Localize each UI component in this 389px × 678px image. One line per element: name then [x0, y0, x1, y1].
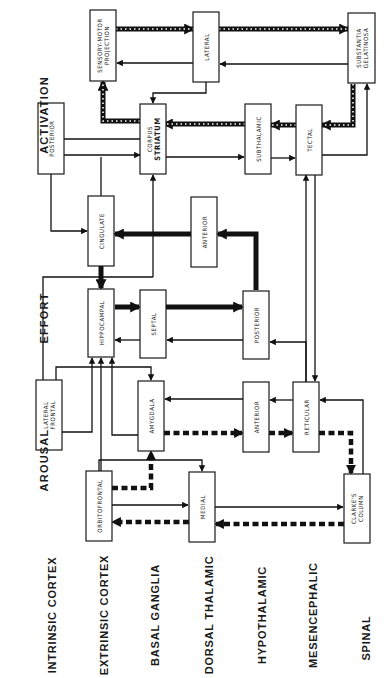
node-clarkes-column: CLARKE'SCOLUMN — [344, 474, 370, 543]
node-label: ORBITOFRONTAL — [96, 479, 103, 532]
node-label: FRONTAL — [49, 401, 56, 430]
level-label-hypothalamic: HYPOTHALAMIC — [256, 566, 268, 664]
node-label: ANTERIOR — [201, 216, 208, 249]
column-labels: ACTIVATION EFFORT AROUSAL — [38, 76, 50, 491]
edge-line — [319, 433, 351, 473]
edge-lateral-to-striatum — [153, 82, 206, 103]
node-label: COLUMN — [357, 495, 364, 522]
level-label-extrinsic-cortex: EXTRINSIC CORTEX — [98, 555, 110, 675]
node-substantia-gelatinosa: SUBSTANTIAGELATINOSA — [348, 13, 375, 83]
node-label: AMYGDALA — [148, 398, 155, 433]
edge-clarkes-to-reticular — [320, 400, 363, 474]
node-orbitofrontal: ORBITOFRONTAL — [86, 471, 112, 541]
column-label-activation: ACTIVATION — [38, 76, 50, 154]
edge-reticular-to-posterior — [270, 342, 306, 382]
edge-tectal-to-substantia — [322, 84, 367, 155]
edge-line — [103, 82, 140, 121]
edge-line — [56, 367, 151, 380]
node-sensory-motor-projection: SENSORY-MOTORPROJECTION — [90, 10, 116, 81]
edge-line — [51, 174, 87, 231]
node-label: MEDIAL — [199, 495, 206, 519]
edge-line — [270, 342, 306, 382]
node-corpus-striatum: CORPUSSTRIATUM — [140, 104, 166, 174]
node-label: ANTERIOR — [253, 401, 260, 434]
edge-striatum-to-sensory — [103, 82, 140, 121]
node-label: SEPTAL — [150, 312, 157, 335]
edge-orbitofrontal-to-amygdala — [112, 452, 151, 488]
node-cingulate: CINGULATE — [88, 196, 114, 266]
edge-reticular-to-clarkes — [319, 433, 351, 473]
edge-amygdala-to-hippocampal — [112, 358, 138, 435]
edge-line — [320, 400, 363, 474]
edge-line — [218, 234, 256, 290]
edge-line — [153, 82, 206, 103]
level-label-mesencephalic: MESENCEPHALIC — [307, 562, 319, 668]
column-label-arousal: AROUSAL — [38, 429, 50, 492]
node-label: HIPPOCAMPAL — [98, 301, 105, 346]
node-label: CORPUS — [146, 126, 153, 152]
column-label-effort: EFFORT — [38, 292, 50, 343]
edge-line — [112, 452, 151, 488]
edge-line — [62, 358, 92, 432]
level-labels: INTRINSIC CORTEX EXTRINSIC CORTEX BASAL … — [46, 555, 372, 675]
node-label: POSTERIOR — [253, 307, 260, 343]
node-septal: SEPTAL — [140, 290, 166, 358]
edge-substantia-to-tectal — [322, 84, 353, 125]
level-label-intrinsic-cortex: INTRINSIC CORTEX — [46, 557, 58, 674]
edge-stripe — [322, 84, 353, 125]
level-label-spinal: SPINAL — [360, 615, 372, 660]
edge-posterior-to-cingulate — [51, 174, 87, 231]
node-label: SENSORY-MOTOR — [96, 18, 103, 72]
node-label: GELATINOSA — [362, 28, 369, 68]
node-label: LATERAL — [203, 33, 210, 60]
node-posterior-hypothalamic: POSTERIOR — [243, 291, 269, 359]
level-label-basal-ganglia: BASAL GANGLIA — [149, 564, 161, 666]
edge-line — [322, 84, 367, 155]
node-label: CINGULATE — [98, 213, 105, 249]
edge-line — [322, 84, 353, 125]
node-lateral-thalamic: LATERAL — [193, 12, 219, 82]
level-label-dorsal-thalamic: DORSAL THALAMIC — [203, 556, 215, 675]
edge-line — [112, 358, 138, 435]
node-tectal: TECTAL — [296, 105, 322, 175]
node-label: PROJECTION — [103, 26, 111, 65]
node-anterior-thalamic: ANTERIOR — [191, 197, 217, 267]
edge-posterior-to-anterior — [218, 234, 256, 290]
node-label: RETICULAR — [303, 399, 310, 435]
node-subthalamic: SUBTHALAMIC — [245, 104, 271, 174]
node-anterior-hypothalamic: ANTERIOR — [243, 382, 269, 452]
node-reticular: RETICULAR — [293, 382, 319, 452]
node-label: CLARKE'S — [350, 493, 357, 524]
node-medial-thalamic: MEDIAL — [189, 472, 215, 542]
node-label: TECTAL — [306, 128, 313, 153]
edge-lateralfrontal-to-hippocampal — [62, 358, 92, 432]
edge-stripe — [103, 82, 140, 121]
node-label: SUBTHALAMIC — [255, 116, 262, 162]
neural-pathway-diagram: SENSORY-MOTORPROJECTIONLATERALSUBSTANTIA… — [0, 0, 389, 678]
node-label: LATERAL — [42, 401, 49, 428]
edge-lateralfrontal-to-amygdala — [56, 367, 151, 380]
node-label: SUBSTANTIA — [355, 28, 362, 68]
node-amygdala: AMYGDALA — [138, 381, 164, 451]
node-hippocampal: HIPPOCAMPAL — [88, 289, 114, 357]
node-label: STRIATUM — [153, 117, 162, 160]
